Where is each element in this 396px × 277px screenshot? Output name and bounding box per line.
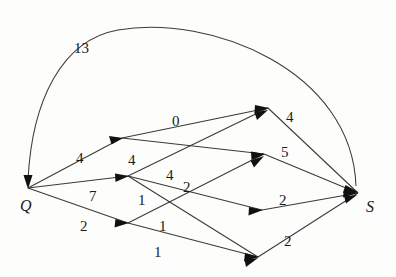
arrowhead-into-g-second — [245, 258, 259, 267]
edge-weight-g-s: 2 — [284, 233, 292, 249]
arrowhead-into-s-third — [344, 195, 357, 204]
edge-weight-q-a: 4 — [76, 150, 84, 166]
edge-segments-group — [28, 108, 358, 257]
node-label-s: S — [366, 198, 374, 215]
edge-weight-q-c: 2 — [80, 218, 88, 234]
edge-weight-q-b: 7 — [89, 188, 97, 204]
edge-weight-d-s: 4 — [286, 109, 294, 125]
edge-b-to-f — [128, 176, 262, 210]
edge-weight-b-d: 4 — [166, 167, 174, 183]
graph-figure-canvas: Q S 13 4 7 2 0 4 4 2 1 1 1 4 5 2 2 — [0, 0, 396, 277]
edge-weight-f-s: 2 — [279, 192, 287, 208]
node-label-q: Q — [20, 197, 32, 214]
edge-e-to-s — [264, 154, 358, 193]
edge-b-to-g — [128, 176, 258, 257]
edge-weight-b-g: 1 — [138, 192, 146, 208]
edge-weight-e-s: 5 — [281, 144, 289, 160]
edge-weight-c-e: 1 — [159, 218, 167, 234]
edge-g-to-s — [258, 193, 358, 257]
edge-weight-a-d: 0 — [172, 113, 180, 129]
edge-weight-b-f: 2 — [183, 179, 191, 195]
edge-q-to-c — [28, 188, 128, 223]
edge-q-to-b — [28, 176, 128, 188]
arrowhead-into-b — [115, 174, 129, 183]
arrowheads-group — [24, 105, 359, 267]
edge-a-to-d — [122, 108, 268, 138]
edge-q-to-a — [28, 138, 122, 188]
edge-weight-s-q: 13 — [74, 40, 89, 56]
graph-svg: Q S 13 4 7 2 0 4 4 2 1 1 1 4 5 2 2 — [0, 0, 396, 277]
edge-c-to-g — [128, 223, 258, 257]
edge-weight-c-g: 1 — [154, 244, 162, 260]
edge-weight-a-e: 4 — [128, 152, 136, 168]
edge-b-to-d — [128, 108, 268, 176]
edge-a-to-e — [122, 138, 264, 154]
